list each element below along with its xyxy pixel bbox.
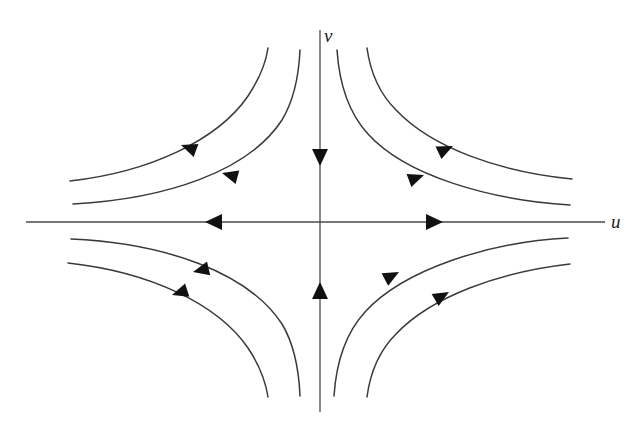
v-axis-label: v (324, 26, 332, 45)
u-positive-direction-arrow-icon (426, 214, 443, 230)
trajectory-curve (334, 238, 568, 396)
trajectory-direction-arrow-icon (172, 283, 189, 296)
trajectory-direction-arrow-icon (222, 170, 239, 184)
axes-group (26, 30, 605, 412)
trajectory-direction-arrow-icon (193, 262, 210, 276)
trajectory-direction-arrow-icon (181, 144, 198, 157)
v-negative-direction-arrow-icon (312, 282, 328, 299)
phase-portrait-figure: v v u (0, 0, 644, 428)
u-negative-direction-arrow-icon (205, 214, 222, 230)
trajectory-direction-arrow-icon (382, 272, 399, 286)
u-axis-label: u (611, 212, 621, 231)
trajectory-curve (71, 239, 300, 396)
trajectory-direction-arrow-icon (407, 174, 424, 187)
trajectory-direction-arrow-icon (436, 146, 453, 159)
v-positive-direction-arrow-icon (312, 149, 328, 166)
axis-arrowheads-group (205, 149, 443, 299)
trajectory-curve (73, 50, 300, 204)
trajectory-curve (367, 48, 572, 179)
trajectory-curve (337, 50, 570, 205)
trajectory-curve (367, 264, 570, 397)
phase-portrait-canvas (0, 0, 644, 428)
